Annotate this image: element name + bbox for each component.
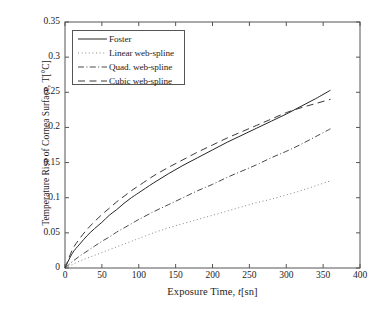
x-tick-label: 400 bbox=[343, 270, 377, 280]
legend-item-cubic-web-spline: Cubic web-spline bbox=[73, 74, 184, 87]
legend-label-cubic-web-spline: Cubic web-spline bbox=[109, 76, 172, 86]
curve-linear-web-spline bbox=[65, 181, 331, 268]
x-axis-label-suffix: [sn] bbox=[241, 286, 258, 297]
legend: Foster Linear web-spline Quad. web-splin… bbox=[72, 30, 185, 85]
x-tick-label: 50 bbox=[85, 270, 119, 280]
x-axis-label: Exposure Time, t[sn] bbox=[65, 286, 360, 297]
chart-figure: 050100150200250300350400 00.050.10.150.2… bbox=[0, 0, 387, 310]
x-tick-label: 200 bbox=[196, 270, 230, 280]
legend-item-linear-web-spline: Linear web-spline bbox=[73, 46, 184, 59]
data-curves bbox=[65, 90, 331, 268]
legend-label-quad-web-spline: Quad. web-spline bbox=[109, 62, 172, 72]
x-tick-label: 100 bbox=[122, 270, 156, 280]
x-tick-label: 150 bbox=[159, 270, 193, 280]
curve-cubic-web-spline bbox=[65, 99, 331, 268]
x-tick-label: 350 bbox=[306, 270, 340, 280]
legend-line-sample-dotted bbox=[76, 47, 109, 59]
x-axis-label-prefix: Exposure Time, bbox=[167, 286, 238, 297]
legend-item-foster: Foster bbox=[73, 32, 184, 45]
legend-item-quad-web-spline: Quad. web-spline bbox=[73, 60, 184, 73]
curve-quad-web-spline bbox=[65, 129, 331, 268]
legend-label-linear-web-spline: Linear web-spline bbox=[109, 48, 174, 58]
x-tick-label: 250 bbox=[232, 270, 266, 280]
legend-line-sample-dashdot bbox=[76, 61, 109, 73]
curve-foster bbox=[65, 90, 331, 268]
y-axis-label: Temperature Rise of Cornea Surface, T[°C… bbox=[41, 18, 51, 268]
legend-line-sample-solid bbox=[76, 33, 109, 45]
legend-label-foster: Foster bbox=[109, 34, 131, 44]
legend-line-sample-dashed bbox=[76, 75, 109, 87]
x-tick-label: 300 bbox=[269, 270, 303, 280]
